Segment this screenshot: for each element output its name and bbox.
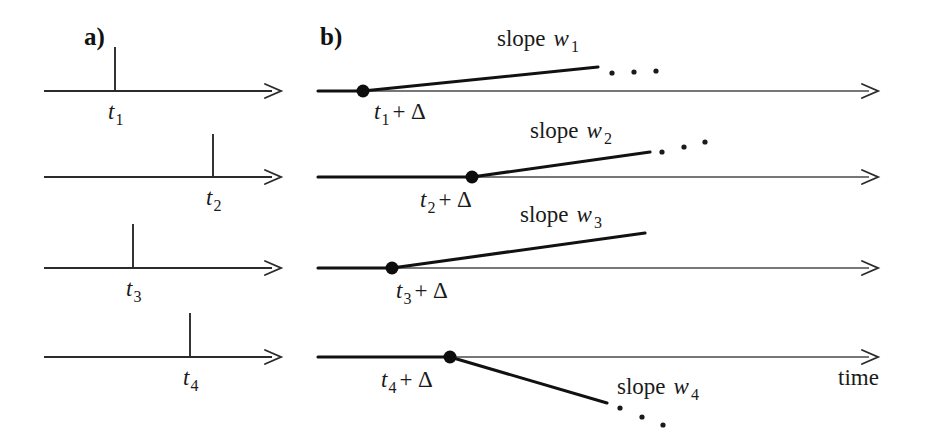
panel-a-row-2: t2 [44, 134, 281, 214]
panel-a-row-3: t3 [44, 224, 281, 305]
figure-root: a) b) t1 t2 t3 t4 [0, 0, 930, 441]
diagram-canvas: a) b) t1 t2 t3 t4 [0, 0, 930, 441]
onset-dot-2 [466, 171, 479, 184]
slope-label-w4: slopew4 [617, 374, 699, 403]
ramp-line-w2 [472, 152, 650, 177]
onset-label-4: t4+ Δ [381, 367, 433, 396]
tick-label-t4: t4 [183, 365, 198, 394]
ellipsis-b4 [617, 405, 665, 427]
ellipsis-b2 [659, 139, 707, 154]
panel-b-row-2: t2+ Δ slopew2 [318, 118, 878, 216]
slope-label-w3: slopew3 [520, 202, 602, 231]
panel-a-label: a) [84, 23, 105, 51]
ellipsis-b1 [609, 68, 658, 75]
ramp-line-w4 [450, 357, 607, 403]
onset-label-1: t1+ Δ [374, 99, 426, 128]
onset-dot-4 [444, 351, 457, 364]
slope-label-w2: slopew2 [530, 118, 612, 147]
panel-b-row-3: t3+ Δ slopew3 [318, 202, 878, 307]
panel-b-label: b) [320, 23, 342, 51]
panel-a-row-1: t1 [44, 47, 281, 128]
panel-b-row-4: t4+ Δ slopew4 time [318, 350, 879, 428]
ramp-line-w1 [363, 67, 598, 91]
onset-dot-3 [386, 262, 399, 275]
onset-label-3: t3+ Δ [396, 278, 448, 307]
time-axis-label: time [838, 365, 879, 390]
tick-label-t3: t3 [126, 276, 141, 305]
panel-b-row-1: t1+ Δ slopew1 [318, 26, 878, 128]
tick-label-t2: t2 [206, 185, 221, 214]
panel-a-row-4: t4 [44, 313, 281, 394]
onset-label-2: t2+ Δ [420, 187, 472, 216]
tick-label-t1: t1 [108, 99, 123, 128]
onset-dot-1 [357, 85, 370, 98]
slope-label-w1: slopew1 [497, 26, 579, 55]
ramp-line-w3 [392, 233, 645, 268]
